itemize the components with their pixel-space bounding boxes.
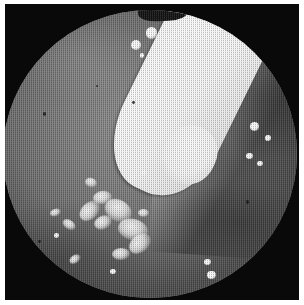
print-margin-bottom bbox=[0, 300, 304, 305]
specular-highlight bbox=[110, 269, 115, 274]
dark-speck bbox=[43, 112, 47, 115]
print-margin-left bbox=[0, 0, 5, 305]
specular-highlight bbox=[246, 153, 253, 160]
specular-highlight bbox=[146, 27, 158, 39]
circular-field-of-view bbox=[5, 10, 297, 298]
specular-highlight bbox=[126, 130, 134, 137]
specular-highlight bbox=[140, 53, 145, 58]
specular-highlight bbox=[54, 233, 59, 238]
specular-highlight bbox=[250, 122, 259, 131]
photo-plate-black-mask bbox=[5, 4, 299, 300]
specular-highlight bbox=[182, 29, 191, 38]
specular-highlight bbox=[141, 170, 147, 176]
print-margin-top bbox=[0, 0, 304, 4]
specular-highlight bbox=[163, 24, 172, 33]
dark-speck bbox=[246, 200, 250, 203]
dark-speck bbox=[132, 101, 135, 104]
specular-highlight bbox=[265, 135, 271, 141]
endoscopic-photograph bbox=[0, 0, 304, 305]
specular-highlight bbox=[150, 81, 156, 87]
specular-highlight bbox=[257, 161, 262, 166]
specular-highlight bbox=[131, 40, 141, 50]
print-margin-right bbox=[299, 0, 304, 305]
